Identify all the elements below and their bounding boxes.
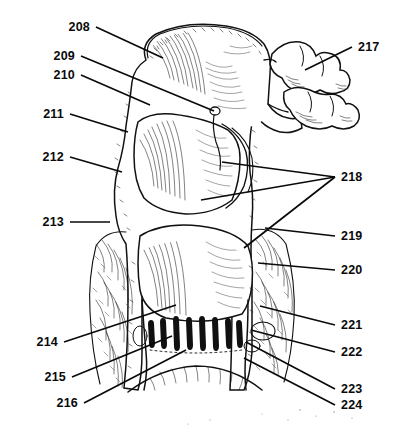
callout-label-219: 219 bbox=[341, 229, 362, 243]
rectal-fold-mid bbox=[134, 114, 240, 214]
callout-label-214: 214 bbox=[37, 335, 58, 349]
anatomical-figure: 208209210211212213214215216 217218219220… bbox=[0, 0, 393, 431]
callout-label-223: 223 bbox=[341, 382, 362, 396]
callout-label-217: 217 bbox=[358, 40, 379, 54]
callout-label-209: 209 bbox=[54, 49, 75, 63]
rectal-ampulla-lower bbox=[138, 225, 253, 321]
callout-label-224: 224 bbox=[341, 398, 362, 412]
callout-label-210: 210 bbox=[54, 68, 75, 82]
callout-label-211: 211 bbox=[43, 107, 64, 121]
callout-label-215: 215 bbox=[45, 370, 66, 384]
callout-label-222: 222 bbox=[341, 345, 362, 359]
callout-label-216: 216 bbox=[57, 396, 78, 410]
callout-label-208: 208 bbox=[69, 20, 90, 34]
callout-label-220: 220 bbox=[341, 263, 362, 277]
figure-canvas: 208209210211212213214215216 217218219220… bbox=[0, 0, 393, 431]
callout-label-218: 218 bbox=[341, 170, 362, 184]
callout-label-221: 221 bbox=[341, 318, 362, 332]
callout-label-212: 212 bbox=[43, 150, 64, 164]
callout-label-213: 213 bbox=[43, 215, 64, 229]
